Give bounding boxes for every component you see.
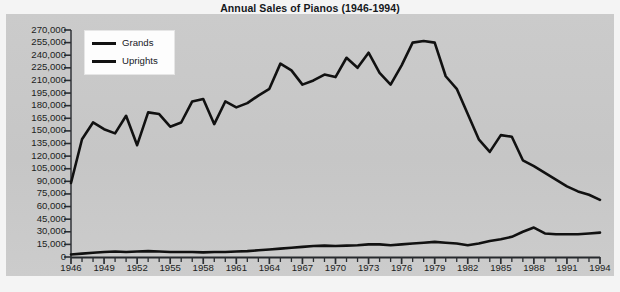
x-axis-tick-label: 1967 bbox=[292, 262, 313, 273]
x-axis-tick-label: 1988 bbox=[523, 262, 544, 273]
x-axis-tick-label: 1958 bbox=[193, 262, 214, 273]
legend-label-grands: Grands bbox=[122, 36, 153, 50]
x-axis-tick-label: 1946 bbox=[60, 262, 81, 273]
x-axis-tick-label: 1985 bbox=[490, 262, 511, 273]
x-axis-tick-label: 1952 bbox=[126, 262, 147, 273]
chart-legend: Grands Uprights bbox=[84, 30, 175, 75]
x-axis-tick-label: 1976 bbox=[391, 262, 412, 273]
legend-label-uprights: Uprights bbox=[122, 54, 158, 68]
x-axis-tick-label: 1994 bbox=[589, 262, 610, 273]
x-axis-tick-label: 1961 bbox=[226, 262, 247, 273]
x-axis-tick-label: 1982 bbox=[457, 262, 478, 273]
x-axis-tick-label: 1991 bbox=[556, 262, 577, 273]
x-axis-tick-label: 1973 bbox=[358, 262, 379, 273]
x-axis-tick-label: 1964 bbox=[259, 262, 280, 273]
x-axis-tick-label: 1955 bbox=[160, 262, 181, 273]
chart-figure: Annual Sales of Pianos (1946-1994) 270,0… bbox=[0, 0, 620, 292]
x-axis-tick-label: 1979 bbox=[424, 262, 445, 273]
legend-line-swatch-uprights bbox=[92, 60, 116, 63]
x-axis-tick-label: 1949 bbox=[93, 262, 114, 273]
x-axis-tick-label: 1970 bbox=[325, 262, 346, 273]
legend-line-swatch-grands bbox=[92, 42, 116, 45]
